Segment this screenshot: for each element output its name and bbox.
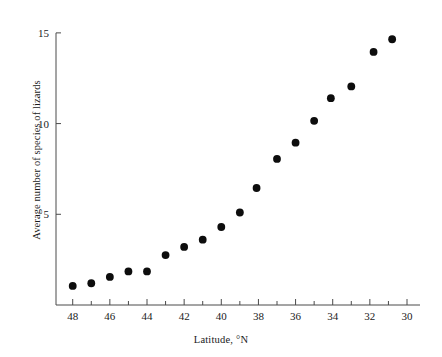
x-axis-tick-label: 32: [364, 310, 375, 322]
data-point: [106, 273, 114, 281]
data-point: [370, 48, 378, 56]
data-point: [143, 268, 151, 276]
axis-layer: [56, 33, 420, 305]
x-axis-title: Latitude, °N: [0, 334, 442, 345]
x-axis-tick-label: 34: [327, 310, 339, 322]
data-point: [199, 236, 207, 244]
data-point: [273, 155, 281, 163]
data-point-layer: [69, 35, 396, 290]
x-axis-tick-label: 46: [104, 310, 116, 322]
chart-figure: Average number of species of lizards Lat…: [0, 0, 442, 357]
x-axis-tick-label: 42: [179, 310, 190, 322]
y-axis-title: Average number of species of lizards: [28, 60, 46, 260]
data-point: [347, 83, 355, 91]
y-axis-tick-label: 15: [38, 27, 50, 39]
data-point: [327, 94, 335, 102]
scatter-plot-canvas: 5101548464442403836343230: [0, 0, 442, 357]
data-point: [69, 282, 77, 290]
x-axis-tick-label: 44: [142, 310, 154, 322]
data-point: [125, 268, 133, 276]
x-axis-tick-label: 48: [67, 310, 79, 322]
data-point: [162, 251, 170, 259]
data-point: [310, 117, 318, 125]
tick-label-layer: 5101548464442403836343230: [38, 27, 413, 322]
tick-layer: [56, 33, 407, 305]
data-point: [180, 243, 188, 251]
data-point: [217, 223, 225, 231]
x-axis-tick-label: 36: [290, 310, 302, 322]
data-point: [253, 184, 261, 192]
data-point: [87, 279, 95, 287]
data-point: [292, 139, 300, 147]
x-axis-tick-label: 30: [402, 310, 414, 322]
data-point: [388, 35, 396, 43]
data-point: [236, 209, 244, 217]
x-axis-tick-label: 38: [253, 310, 265, 322]
x-axis-tick-label: 40: [216, 310, 228, 322]
